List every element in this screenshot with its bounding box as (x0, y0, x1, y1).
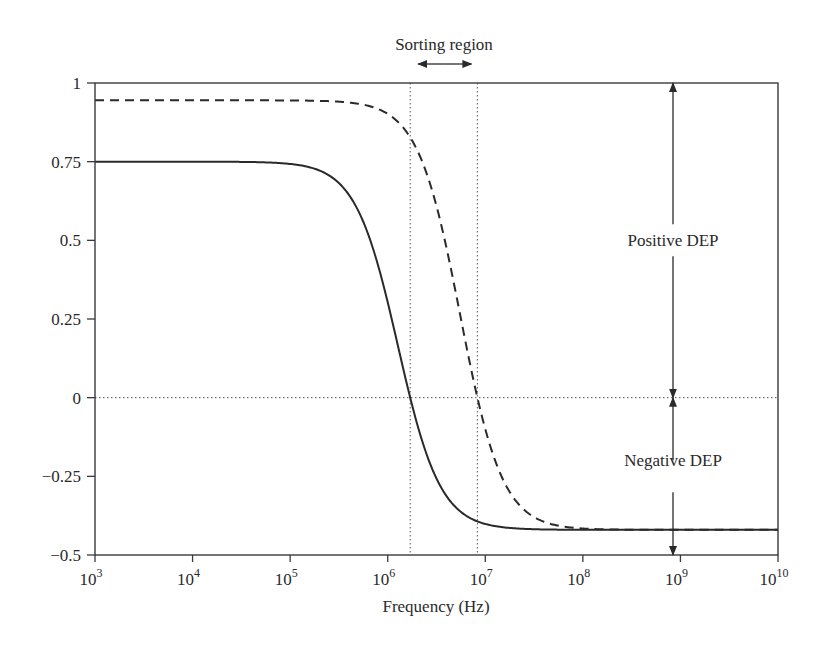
series-solid-line (95, 162, 778, 530)
y-tick-label: 1 (73, 74, 82, 93)
x-tick-label: 104 (177, 566, 200, 589)
y-tick-label: 0 (73, 389, 82, 408)
x-axis: 1031041051061071081091010 (80, 555, 789, 589)
x-tick-label: 1010 (760, 566, 789, 589)
x-tick-label: 103 (80, 566, 103, 589)
y-tick-label: 0.5 (60, 231, 81, 250)
x-tick-label: 105 (275, 566, 298, 589)
y-tick-label: −0.25 (42, 467, 81, 486)
positive-dep-label: Positive DEP (627, 231, 718, 250)
x-tick-label: 108 (567, 566, 590, 589)
x-axis-label: Frequency (Hz) (382, 597, 489, 616)
annotations: Sorting region Positive DEP Negative DEP (395, 35, 722, 555)
dep-frequency-chart: 10.750.50.250−0.25−0.5 10310410510610710… (0, 0, 828, 647)
y-tick-label: −0.5 (50, 546, 81, 565)
x-tick-label: 106 (372, 566, 395, 589)
sorting-region-label: Sorting region (395, 35, 493, 54)
y-tick-label: 0.75 (51, 153, 81, 172)
x-tick-label: 109 (665, 566, 688, 589)
x-tick-label: 107 (470, 566, 493, 589)
y-axis: 10.750.50.250−0.25−0.5 (42, 74, 95, 565)
reference-lines (95, 83, 778, 555)
plot-frame (95, 83, 778, 555)
y-tick-label: 0.25 (51, 310, 81, 329)
